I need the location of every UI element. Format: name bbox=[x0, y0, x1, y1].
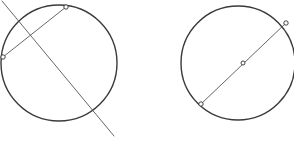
chord-endpoint-top bbox=[64, 5, 68, 9]
left-panel-group bbox=[1, 1, 117, 136]
chord-endpoint-lower-left bbox=[199, 102, 203, 106]
right-circle bbox=[181, 6, 294, 120]
figure-canvas bbox=[0, 0, 294, 143]
geometry-figure-svg bbox=[0, 0, 294, 143]
left-circle bbox=[1, 5, 117, 121]
left-chord bbox=[3, 7, 66, 57]
chord-endpoint-left bbox=[1, 55, 5, 59]
left-secant-line bbox=[2, 1, 114, 136]
chord-endpoint-upper-right bbox=[284, 21, 288, 25]
right-panel-group bbox=[181, 6, 294, 120]
chord-midpoint bbox=[241, 61, 245, 65]
